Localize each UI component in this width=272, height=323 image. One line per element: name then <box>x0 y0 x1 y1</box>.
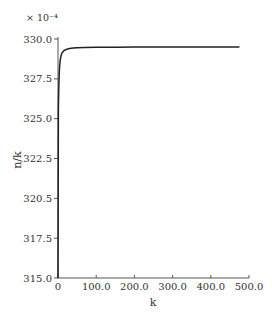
y-tick-label: 320.5 <box>23 193 52 204</box>
data-line <box>58 47 239 278</box>
x-tick-label: 300.0 <box>158 281 187 292</box>
y-tick-label: 327.5 <box>23 73 52 84</box>
x-tick-label: 200.0 <box>120 281 149 292</box>
line-chart: 315.0317.5320.5322.5325.0327.5330.0 0100… <box>0 0 272 323</box>
y-axis-label: n/k <box>11 151 24 169</box>
x-tick-label: 500.0 <box>235 281 264 292</box>
x-tick-label: 0 <box>55 281 61 292</box>
x-axis-label: k <box>150 296 157 309</box>
y-ticks: 315.0317.5320.5322.5325.0327.5330.0 <box>23 34 58 284</box>
y-tick-label: 315.0 <box>23 273 52 284</box>
y-tick-label: 325.0 <box>23 113 52 124</box>
y-scale-note: × 10⁻⁴ <box>26 12 58 23</box>
y-axis: 315.0317.5320.5322.5325.0327.5330.0 <box>23 34 58 284</box>
y-tick-label: 317.5 <box>23 233 52 244</box>
x-tick-label: 100.0 <box>82 281 111 292</box>
y-tick-label: 322.5 <box>23 153 52 164</box>
x-tick-label: 400.0 <box>196 281 225 292</box>
x-axis: 0100.0200.0300.0400.0500.0 <box>55 275 264 292</box>
y-tick-label: 330.0 <box>23 34 52 45</box>
